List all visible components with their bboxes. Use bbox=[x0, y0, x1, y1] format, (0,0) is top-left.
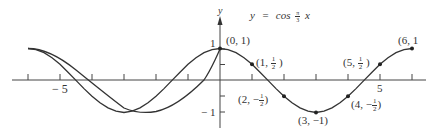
equation-fraction: π 3 bbox=[295, 10, 300, 23]
point-label-3: (3, −1) bbox=[298, 115, 328, 126]
tick-label-neg5: − 5 bbox=[52, 83, 68, 95]
tick-label-5: 5 bbox=[377, 83, 383, 94]
tick-label-neg1: − 1 bbox=[201, 107, 215, 118]
point-label-5: (5, 12 ) bbox=[343, 56, 370, 71]
equation-left: y = cos bbox=[250, 9, 290, 21]
point-label-0: (0, 1) bbox=[226, 35, 250, 46]
y-axis-arrow-icon bbox=[218, 16, 223, 25]
point-label-2: (2, −12) bbox=[238, 93, 268, 108]
y-axis-label: y bbox=[218, 6, 222, 16]
point-label-6: (6, 1 bbox=[398, 35, 418, 46]
equation-title: y = cos π 3 x bbox=[250, 10, 310, 23]
point-label-4: (4, −12) bbox=[351, 98, 381, 113]
equation-var: x bbox=[305, 9, 310, 21]
point-label-1: (1, 12 ) bbox=[256, 56, 283, 71]
tick-label-1: 1 bbox=[210, 38, 216, 49]
